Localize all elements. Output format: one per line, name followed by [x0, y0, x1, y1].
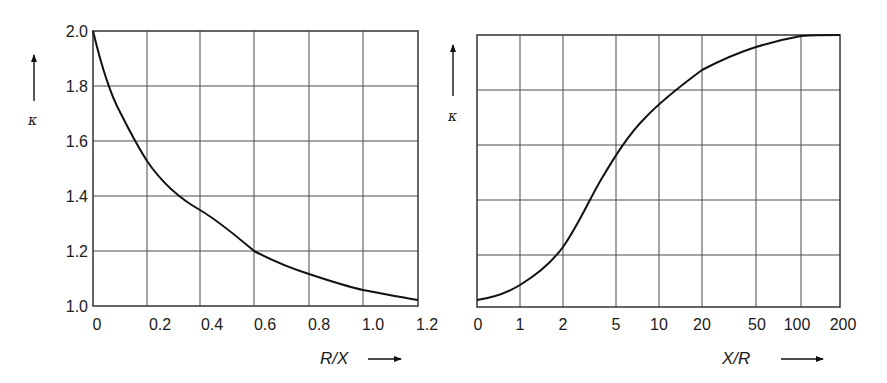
left-grid [93, 31, 418, 306]
x-tick: 0 [474, 316, 483, 333]
left-curve [93, 31, 418, 300]
left-x-ticks: 0 0.2 0.4 0.6 0.8 1.0 1.2 [93, 316, 439, 333]
y-tick: 1.4 [66, 188, 88, 205]
x-tick: 0.8 [308, 316, 330, 333]
right-grid [477, 35, 840, 307]
y-tick: 1.0 [66, 298, 88, 315]
left-y-ticks: 2.0 1.8 1.6 1.4 1.2 1.0 [66, 23, 88, 315]
y-tick: 1.6 [66, 133, 88, 150]
x-tick: 200 [830, 316, 857, 333]
left-y-axis-label: κ [27, 112, 37, 128]
x-tick: 0 [93, 316, 102, 333]
right-chart: 0 1 2 5 10 20 50 100 200 κ X/R [447, 35, 856, 368]
x-tick: 5 [612, 316, 621, 333]
x-tick: 100 [784, 316, 811, 333]
y-tick: 1.8 [66, 78, 88, 95]
x-tick: 2 [559, 316, 568, 333]
x-tick: 0.4 [201, 316, 223, 333]
x-tick: 1.2 [416, 316, 438, 333]
figure: 2.0 1.8 1.6 1.4 1.2 1.0 0 0.2 0.4 0.6 0.… [0, 0, 887, 383]
right-x-axis-label: X/R [721, 349, 750, 368]
x-tick: 10 [650, 316, 668, 333]
y-tick: 2.0 [66, 23, 88, 40]
x-tick: 1.0 [362, 316, 384, 333]
left-chart: 2.0 1.8 1.6 1.4 1.2 1.0 0 0.2 0.4 0.6 0.… [27, 23, 438, 368]
x-tick: 0.2 [149, 316, 171, 333]
y-tick: 1.2 [66, 243, 88, 260]
x-tick: 0.6 [254, 316, 276, 333]
x-tick: 1 [516, 316, 525, 333]
right-x-ticks: 0 1 2 5 10 20 50 100 200 [474, 316, 857, 333]
x-tick: 50 [748, 316, 766, 333]
right-y-axis-label: κ [447, 108, 457, 124]
left-x-axis-label: R/X [320, 349, 349, 368]
x-tick: 20 [693, 316, 711, 333]
